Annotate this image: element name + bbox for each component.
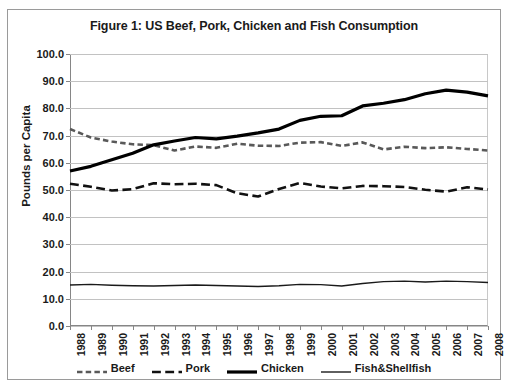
x-tick-label: 2008 — [493, 333, 505, 356]
x-tick-label: 1993 — [180, 333, 192, 356]
x-tick-mark — [154, 326, 155, 330]
x-tick-label: 2000 — [326, 333, 338, 356]
x-tick-mark — [384, 326, 385, 330]
x-tick-mark — [133, 326, 134, 330]
x-tick-mark — [195, 326, 196, 330]
x-tick-label: 1988 — [75, 333, 87, 356]
plot-wrap: 0.010.020.030.040.050.060.070.080.090.01… — [70, 54, 488, 326]
y-tick-label: 40.0 — [43, 211, 64, 223]
series-line-pork — [70, 183, 488, 197]
legend-item-chicken[interactable]: Chicken — [227, 362, 304, 374]
chart-title: Figure 1: US Beef, Pork, Chicken and Fis… — [8, 19, 500, 33]
legend-swatch-pork — [152, 363, 182, 373]
y-tick-label: 60.0 — [43, 157, 64, 169]
x-tick-label: 1991 — [138, 333, 150, 356]
legend-swatch-fish-shellfish — [321, 363, 351, 373]
x-tick-label: 2006 — [451, 333, 463, 356]
x-tick-mark — [300, 326, 301, 330]
y-axis-title: Pounds per Capita — [20, 56, 32, 256]
legend-item-fish-shellfish[interactable]: Fish&Shellfish — [321, 362, 431, 374]
x-tick-label: 1996 — [242, 333, 254, 356]
y-tick-label: 90.0 — [43, 75, 64, 87]
x-tick-mark — [488, 326, 489, 330]
x-tick-mark — [404, 326, 405, 330]
x-tick-mark — [425, 326, 426, 330]
x-tick-label: 1997 — [263, 333, 275, 356]
x-tick-label: 1999 — [305, 333, 317, 356]
x-tick-mark — [175, 326, 176, 330]
legend-label-beef: Beef — [111, 362, 135, 374]
chart-legend: BeefPorkChickenFish&Shellfish — [8, 362, 500, 374]
x-tick-mark — [91, 326, 92, 330]
x-tick-label: 1992 — [159, 333, 171, 356]
y-tick-label: 50.0 — [43, 184, 64, 196]
legend-label-fish-shellfish: Fish&Shellfish — [355, 362, 431, 374]
x-tick-label: 1998 — [284, 333, 296, 356]
x-tick-mark — [216, 326, 217, 330]
chart-container: Figure 1: US Beef, Pork, Chicken and Fis… — [7, 9, 501, 380]
y-tick-label: 100.0 — [36, 48, 64, 60]
x-tick-mark — [467, 326, 468, 330]
x-tick-label: 2003 — [389, 333, 401, 356]
x-tick-mark — [112, 326, 113, 330]
x-tick-mark — [279, 326, 280, 330]
legend-label-chicken: Chicken — [261, 362, 304, 374]
y-tick-label: 30.0 — [43, 238, 64, 250]
x-tick-mark — [446, 326, 447, 330]
series-layer — [70, 54, 488, 326]
legend-item-beef[interactable]: Beef — [77, 362, 135, 374]
x-tick-mark — [258, 326, 259, 330]
x-tick-label: 1994 — [200, 333, 212, 356]
y-tick-label: 0.0 — [49, 320, 64, 332]
legend-item-pork[interactable]: Pork — [152, 362, 210, 374]
y-tick-label: 80.0 — [43, 102, 64, 114]
x-tick-label: 2001 — [347, 333, 359, 356]
series-line-beef — [70, 129, 488, 150]
legend-swatch-beef — [77, 363, 107, 373]
legend-swatch-chicken — [227, 363, 257, 373]
x-tick-mark — [70, 326, 71, 330]
x-tick-mark — [342, 326, 343, 330]
x-tick-label: 2005 — [430, 333, 442, 356]
x-tick-label: 2004 — [409, 333, 421, 356]
legend-label-pork: Pork — [186, 362, 210, 374]
x-tick-label: 1995 — [221, 333, 233, 356]
series-line-chicken — [70, 90, 488, 171]
y-tick-label: 20.0 — [43, 266, 64, 278]
x-tick-label: 2007 — [472, 333, 484, 356]
y-tick-label: 70.0 — [43, 130, 64, 142]
x-tick-label: 1990 — [117, 333, 129, 356]
x-tick-label: 1989 — [96, 333, 108, 356]
x-tick-mark — [363, 326, 364, 330]
x-tick-label: 2002 — [368, 333, 380, 356]
y-tick-label: 10.0 — [43, 293, 64, 305]
x-tick-mark — [321, 326, 322, 330]
series-line-fish-shellfish — [70, 281, 488, 286]
x-tick-mark — [237, 326, 238, 330]
